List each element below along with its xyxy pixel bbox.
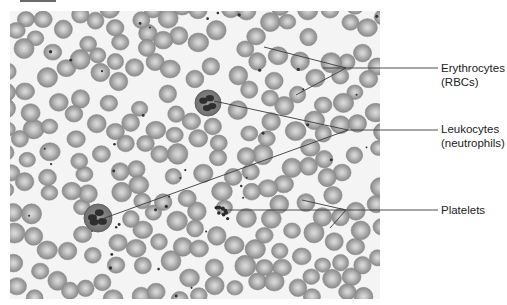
erythrocyte bbox=[77, 280, 94, 296]
erythrocyte bbox=[37, 68, 57, 88]
neutrophil-nucleus-lobe bbox=[88, 214, 97, 221]
label-erythrocytes: Erythrocytes (RBCs) bbox=[441, 61, 505, 89]
erythrocyte bbox=[374, 123, 380, 141]
platelet-cluster bbox=[221, 207, 225, 211]
erythrocyte bbox=[330, 116, 350, 134]
platelet bbox=[139, 22, 142, 25]
platelet bbox=[206, 17, 209, 20]
erythrocyte bbox=[243, 183, 260, 200]
erythrocyte bbox=[129, 176, 149, 194]
erythrocyte bbox=[25, 227, 43, 245]
erythrocyte bbox=[137, 135, 155, 151]
erythrocyte bbox=[306, 69, 325, 87]
erythrocyte bbox=[15, 83, 34, 100]
erythrocyte bbox=[265, 72, 283, 89]
erythrocyte bbox=[122, 114, 140, 132]
erythrocyte bbox=[128, 161, 145, 178]
erythrocyte bbox=[190, 240, 209, 257]
platelet bbox=[168, 195, 170, 197]
label-leukocytes: Leukocytes (neutrophils) bbox=[441, 122, 505, 150]
erythrocyte bbox=[190, 288, 207, 299]
platelet bbox=[44, 148, 46, 150]
platelet bbox=[330, 158, 333, 161]
erythrocyte bbox=[167, 211, 188, 231]
erythrocyte bbox=[188, 33, 209, 52]
erythrocyte bbox=[71, 153, 88, 169]
erythrocyte bbox=[332, 208, 350, 225]
blood-smear-image bbox=[10, 11, 380, 299]
erythrocyte bbox=[11, 131, 28, 148]
erythrocyte bbox=[10, 22, 25, 38]
erythrocyte bbox=[242, 163, 259, 179]
erythrocyte bbox=[10, 254, 23, 272]
erythrocyte bbox=[291, 52, 310, 71]
erythrocyte bbox=[103, 290, 123, 299]
platelet bbox=[118, 223, 121, 226]
erythrocyte bbox=[26, 290, 43, 299]
erythrocyte bbox=[371, 141, 380, 156]
platelet-cluster bbox=[215, 206, 219, 210]
platelet bbox=[375, 15, 378, 18]
erythrocyte bbox=[123, 211, 140, 228]
erythrocyte bbox=[19, 152, 35, 167]
erythrocyte bbox=[15, 173, 33, 191]
erythrocyte bbox=[61, 282, 78, 299]
erythrocyte bbox=[249, 53, 266, 71]
erythrocyte bbox=[354, 256, 371, 274]
platelet bbox=[28, 215, 30, 217]
erythrocyte bbox=[241, 126, 258, 141]
erythrocyte bbox=[126, 239, 146, 257]
erythrocyte bbox=[228, 101, 247, 120]
erythrocyte bbox=[285, 122, 306, 141]
erythrocyte bbox=[158, 11, 178, 28]
platelet bbox=[242, 197, 244, 199]
erythrocyte bbox=[94, 274, 111, 291]
erythrocyte bbox=[258, 180, 278, 197]
erythrocyte bbox=[346, 147, 363, 163]
erythrocyte bbox=[297, 194, 315, 212]
erythrocyte bbox=[49, 93, 68, 111]
platelet bbox=[297, 68, 300, 71]
erythrocyte bbox=[21, 104, 40, 122]
erythrocyte bbox=[168, 106, 185, 122]
erythrocyte bbox=[236, 208, 256, 227]
erythrocyte bbox=[253, 144, 273, 164]
erythrocyte bbox=[134, 257, 151, 274]
label-platelets: Platelets bbox=[441, 203, 485, 217]
erythrocyte bbox=[325, 233, 343, 251]
erythrocyte bbox=[10, 278, 27, 295]
erythrocyte bbox=[67, 131, 85, 148]
erythrocyte bbox=[289, 279, 307, 297]
erythrocyte bbox=[189, 11, 207, 19]
erythrocyte bbox=[262, 90, 279, 106]
erythrocyte bbox=[351, 221, 370, 240]
erythrocyte bbox=[92, 146, 110, 162]
erythrocyte bbox=[87, 115, 106, 133]
erythrocyte bbox=[151, 146, 169, 163]
erythrocyte bbox=[14, 38, 34, 58]
erythrocyte bbox=[256, 228, 274, 244]
erythrocyte bbox=[100, 95, 118, 111]
erythrocyte bbox=[160, 60, 180, 78]
label-leukocytes-line1: Leukocytes bbox=[441, 122, 505, 136]
erythrocyte bbox=[365, 103, 380, 122]
erythrocyte bbox=[10, 63, 16, 79]
erythrocyte bbox=[58, 242, 76, 260]
erythrocyte bbox=[209, 149, 226, 165]
erythrocyte bbox=[300, 28, 317, 45]
erythrocyte bbox=[323, 269, 342, 288]
erythrocyte bbox=[282, 158, 302, 177]
erythrocyte bbox=[44, 44, 62, 60]
erythrocyte bbox=[357, 19, 377, 37]
neutrophil-nucleus-lobe bbox=[95, 209, 104, 216]
erythrocyte bbox=[207, 21, 227, 40]
erythrocyte bbox=[342, 14, 359, 30]
erythrocyte bbox=[339, 284, 356, 299]
erythrocyte bbox=[271, 243, 288, 259]
erythrocyte bbox=[133, 12, 150, 29]
platelet bbox=[154, 208, 157, 211]
erythrocyte bbox=[62, 182, 81, 200]
erythrocyte bbox=[10, 203, 22, 221]
platelet bbox=[101, 70, 103, 72]
erythrocyte bbox=[39, 169, 57, 186]
